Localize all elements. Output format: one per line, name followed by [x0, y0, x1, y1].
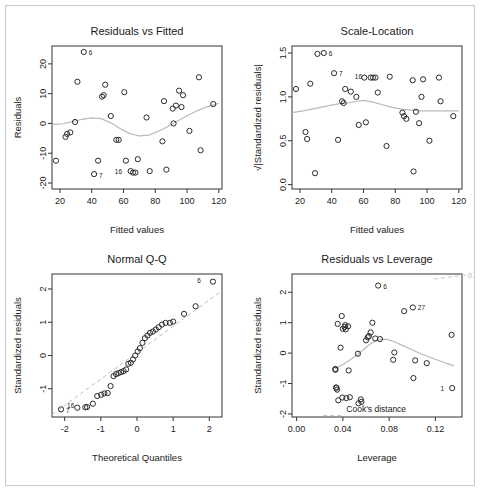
data-point — [123, 158, 128, 163]
data-point — [347, 395, 352, 400]
x-tick-label: 40 — [87, 196, 97, 206]
data-point — [315, 51, 320, 56]
x-axis-label: Fitted values — [350, 224, 404, 235]
data-point — [304, 136, 309, 141]
data-point — [346, 368, 351, 373]
data-point — [420, 77, 425, 82]
data-points — [333, 283, 455, 406]
data-points — [58, 279, 215, 412]
data-point — [92, 172, 97, 177]
loess-smoother — [292, 100, 459, 112]
data-point — [424, 361, 429, 366]
data-points — [293, 50, 455, 175]
panel-normal-qq: Normal Q-Q-2-1012-1012Theoretical Quanti… — [6, 250, 234, 469]
data-point — [308, 81, 313, 86]
y-tick-label: 0.5 — [278, 134, 288, 147]
data-point — [410, 305, 415, 310]
data-point — [451, 114, 456, 119]
data-point — [402, 309, 407, 314]
data-point — [419, 94, 424, 99]
data-point — [332, 71, 337, 76]
data-point — [362, 75, 367, 80]
data-point — [108, 113, 113, 118]
data-point — [356, 122, 361, 127]
data-point — [392, 350, 397, 355]
data-point — [384, 143, 389, 148]
data-point — [413, 358, 418, 363]
data-point — [335, 321, 340, 326]
point-label: 7 — [99, 172, 103, 179]
x-tick-label: -1 — [97, 424, 105, 434]
data-point — [339, 313, 344, 318]
x-tick-label: 60 — [118, 196, 128, 206]
panel-residuals-vs-leverage: Residuals vs Leverage0.000.040.080.12-2-… — [246, 250, 474, 469]
x-tick-label: -2 — [61, 424, 69, 434]
point-label: 6 — [383, 283, 387, 290]
chart-title: Residuals vs Leverage — [321, 253, 432, 265]
y-tick-label: 1.5 — [278, 47, 288, 60]
chart-title: Scale-Location — [341, 25, 414, 37]
data-point — [411, 169, 416, 174]
y-tick-label: 0 — [38, 121, 48, 126]
x-tick-label: 0.12 — [427, 424, 445, 434]
loess-smoother — [52, 103, 219, 136]
point-label: 16 — [115, 168, 123, 175]
x-tick-label: 80 — [390, 196, 400, 206]
point-label: 16 — [355, 73, 363, 80]
cooks-contour-value-label: 0.5 — [468, 272, 474, 279]
chart-title: Normal Q-Q — [107, 253, 167, 265]
data-point — [293, 86, 298, 91]
plot-frame — [292, 46, 462, 189]
data-point — [449, 332, 454, 337]
data-point — [160, 139, 165, 144]
y-tick-label: 20 — [38, 59, 48, 69]
y-tick-label: 1.0 — [278, 91, 288, 104]
data-point — [196, 75, 201, 80]
y-tick-label: 0 — [278, 351, 288, 356]
data-point — [144, 115, 149, 120]
data-point — [410, 78, 415, 83]
y-tick-label: 2 — [278, 290, 288, 295]
data-point — [135, 157, 140, 162]
data-point — [438, 99, 443, 104]
data-point — [376, 283, 381, 288]
data-point — [391, 357, 396, 362]
data-point — [354, 94, 359, 99]
x-tick-label: 0.08 — [380, 424, 398, 434]
data-point — [81, 49, 86, 54]
data-point — [187, 128, 192, 133]
x-tick-label: 0.00 — [288, 424, 306, 434]
cooks-distance-contour-upper — [434, 275, 466, 279]
chart-svg: Normal Q-Q-2-1012-1012Theoretical Quanti… — [6, 250, 234, 469]
y-tick-label: -1 — [278, 380, 288, 388]
data-point — [387, 74, 392, 79]
chart-svg: Residuals vs Leverage0.000.040.080.12-2-… — [246, 250, 474, 469]
data-point — [417, 121, 422, 126]
x-tick-label: 2 — [207, 424, 212, 434]
data-point — [164, 167, 169, 172]
data-point — [180, 93, 185, 98]
y-tick-label: 1 — [278, 320, 288, 325]
plot-frame — [52, 46, 222, 189]
x-tick-label: 80 — [150, 196, 160, 206]
data-point — [436, 75, 441, 80]
data-point — [343, 86, 348, 91]
point-label: 16 — [67, 402, 75, 409]
data-point — [312, 171, 317, 176]
y-tick-label: 1 — [38, 320, 48, 325]
x-tick-label: 20 — [55, 196, 65, 206]
y-axis-label: Standardized residuals — [252, 297, 263, 394]
data-point — [348, 89, 353, 94]
data-point — [75, 79, 80, 84]
chart-title: Residuals vs Fitted — [91, 25, 184, 37]
y-tick-label: -2 — [278, 410, 288, 418]
y-tick-label: 2 — [38, 286, 48, 291]
x-tick-label: 1 — [171, 424, 176, 434]
cooks-distance-legend: Cook's distance — [346, 404, 406, 414]
point-label: 6 — [197, 277, 201, 284]
point-label: 7 — [339, 70, 343, 77]
panel-scale-location: Scale-Location204060801001200.00.51.01.5… — [246, 22, 474, 241]
x-axis-label: Theoretical Quantiles — [92, 452, 182, 463]
data-point — [103, 82, 108, 87]
r-diagnostic-plot-figure: Residuals vs Fitted20406080100120-20-100… — [0, 0, 480, 491]
